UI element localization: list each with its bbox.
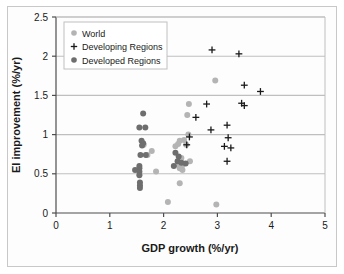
x-tick-label: 2 (161, 220, 167, 231)
legend-label: Developed Regions (82, 56, 161, 66)
legend-label: World (82, 29, 105, 39)
legend-marker-circle (71, 57, 77, 63)
data-point-circle (136, 172, 142, 178)
y-tick-label: 0 (42, 208, 48, 219)
chart-legend: WorldDeveloping RegionsDeveloped Regions (64, 22, 167, 69)
data-point-circle (165, 199, 171, 205)
data-point-circle (140, 110, 146, 116)
y-tick-label: 0.5 (34, 168, 48, 179)
data-point-circle (137, 152, 143, 158)
x-axis-title: GDP growth (%/yr) (142, 242, 239, 254)
data-point-circle (183, 161, 189, 167)
data-point-circle (177, 180, 183, 186)
chart-figure: 012345 00.511.522.5 WorldDeveloping Regi… (0, 0, 344, 274)
data-point-circle (213, 201, 219, 207)
y-tick-label: 2.5 (34, 12, 48, 23)
y-tick-label: 1.5 (34, 90, 48, 101)
x-tick-label: 3 (215, 220, 221, 231)
data-point-circle (137, 185, 143, 191)
x-tick-label: 4 (268, 220, 274, 231)
data-point-circle (172, 143, 178, 149)
x-tick-label: 1 (107, 220, 113, 231)
data-point-circle (171, 163, 177, 169)
data-point-circle (184, 112, 190, 118)
data-point-circle (143, 152, 149, 158)
data-point-circle (153, 168, 159, 174)
x-tick-label: 0 (53, 220, 59, 231)
data-point-circle (179, 167, 185, 173)
data-point-circle (186, 101, 192, 107)
y-axis-title: EI improvement (%/yr) (10, 57, 22, 173)
data-point-circle (139, 143, 145, 149)
x-tick-label: 5 (322, 220, 328, 231)
y-tick-label: 1 (42, 129, 48, 140)
y-tick-label: 2 (42, 51, 48, 62)
legend-label: Developing Regions (82, 42, 163, 52)
data-point-circle (132, 167, 138, 173)
legend-marker-circle (71, 30, 77, 36)
scatter-chart: 012345 00.511.522.5 WorldDeveloping Regi… (0, 0, 344, 274)
data-point-circle (142, 125, 148, 131)
data-point-circle (212, 78, 218, 84)
data-point-circle (136, 125, 142, 131)
x-axis-tick-labels: 012345 (53, 220, 328, 231)
y-axis-tick-labels: 00.511.522.5 (34, 12, 48, 219)
